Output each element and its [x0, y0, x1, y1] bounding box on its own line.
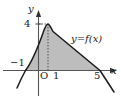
x-tick-label-five: 5	[94, 71, 100, 81]
y-axis-label: y	[28, 4, 34, 14]
y-axis-arrowhead	[36, 10, 41, 17]
math-figure-graph: y x 4 −1 O 1 5 y=f(x)	[0, 0, 121, 99]
y-tick-label-4: 4	[24, 19, 30, 29]
x-tick-label-one: 1	[53, 71, 59, 81]
shaded-region-under-curve	[26, 24, 101, 71]
origin-label: O	[40, 71, 48, 81]
x-axis-label: x	[111, 66, 117, 76]
curve-label: y=f(x)	[71, 34, 102, 44]
graph-canvas	[0, 0, 121, 99]
x-tick-label-negative-one: −1	[10, 58, 25, 68]
